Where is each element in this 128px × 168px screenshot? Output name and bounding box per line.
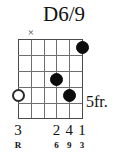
fret-line-1 [18,55,82,56]
chord-name-title: D6/9 [0,3,128,25]
fret-line-5 [18,118,82,119]
finger-number-string-1: 1 [75,122,89,138]
open-note-dot-string-6 [12,89,25,102]
chord-diagram-card: D6/9 × 5fr. 3241 R693 [0,0,128,168]
string-line-2 [69,39,70,119]
string-line-4 [44,39,45,119]
fret-line-0 [18,39,82,40]
finger-number-string-6: 3 [11,122,25,138]
fretboard-grid [18,39,82,119]
string-markers-row: × [18,26,82,38]
fretted-note-dot-string-2 [63,89,76,102]
fretted-note-dot-string-3 [50,73,63,86]
fretted-note-dot-string-1 [76,41,89,54]
muted-string-marker-string-5: × [25,26,36,38]
fret-line-4 [18,103,82,104]
string-line-6 [18,39,19,119]
fret-line-2 [18,71,82,72]
fret-line-3 [18,87,82,88]
string-line-5 [31,39,32,119]
fret-position-label: 5fr. [86,93,108,110]
interval-label-string-6: R [11,140,25,151]
interval-labels-row: R693 [18,140,82,152]
interval-label-string-1: 3 [75,140,89,151]
finger-numbers-row: 3241 [18,122,82,138]
